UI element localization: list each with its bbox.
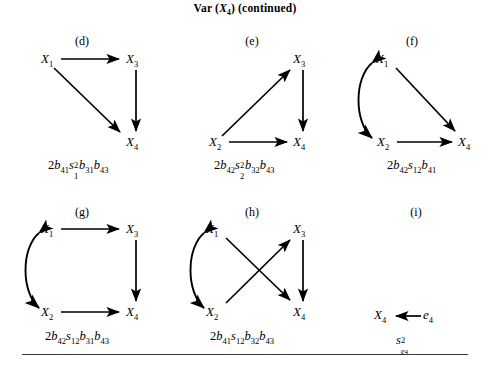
node-x4-subscript: 4 (382, 315, 386, 325)
node-e4-subscript: 4 (429, 315, 433, 325)
horizontal-divider (22, 354, 468, 355)
node-e4: e4 (423, 308, 433, 324)
panel-i-edges (0, 0, 490, 371)
formula-sup: 2 (401, 336, 405, 345)
node-x4-symbol: X (374, 307, 382, 322)
node-x4: X4 (374, 308, 386, 324)
panel-i-formula: s2e4 (396, 334, 412, 347)
figure-container: Var (X4) (continued) (d) X1 (0, 0, 490, 371)
